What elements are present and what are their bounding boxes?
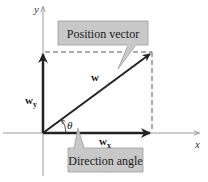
y-axis-label: y bbox=[33, 3, 39, 15]
direction-angle-label: Direction angle bbox=[68, 154, 142, 168]
angle-arc bbox=[62, 119, 67, 133]
wy-label-subscript: y bbox=[33, 100, 37, 109]
position-vector-callout: Position vector bbox=[58, 21, 148, 69]
wy-label-base: w bbox=[25, 94, 33, 106]
theta-label: θ bbox=[67, 119, 73, 131]
position-vector-label: Position vector bbox=[67, 27, 139, 41]
w-vector-label: w bbox=[91, 71, 99, 83]
x-axis-label: x bbox=[194, 138, 200, 150]
vector-diagram: Position vector Direction angle y x w w … bbox=[0, 0, 208, 182]
wx-label-base: w bbox=[99, 135, 107, 147]
wx-label-subscript: x bbox=[107, 141, 111, 150]
wy-label: w y bbox=[25, 94, 37, 109]
position-vector-w bbox=[43, 54, 150, 133]
